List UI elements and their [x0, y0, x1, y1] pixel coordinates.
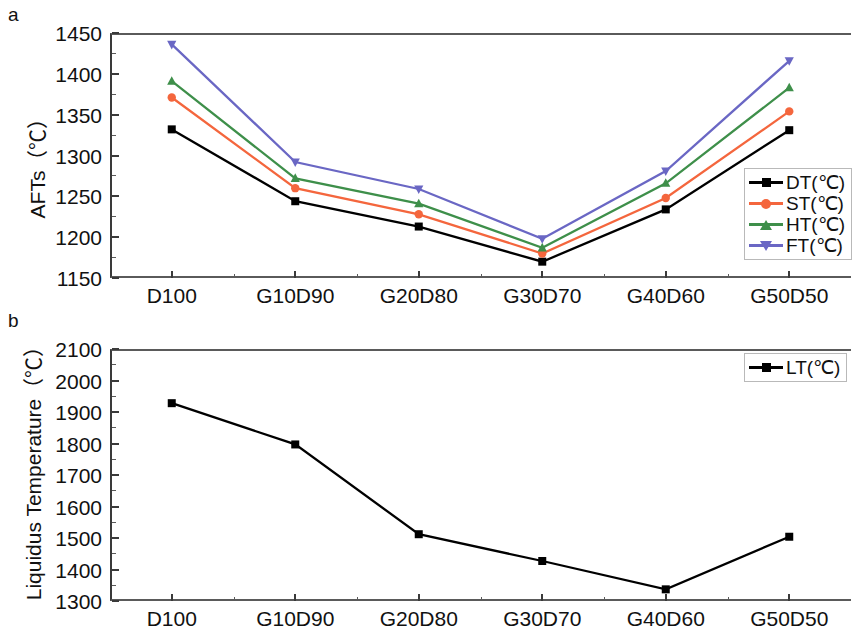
- data-point-marker: [415, 223, 423, 231]
- legend-swatch: [749, 239, 783, 253]
- legend-swatch: [749, 218, 783, 232]
- data-point-marker: [415, 210, 423, 218]
- legend-marker: [760, 220, 772, 230]
- data-point-marker: [662, 205, 670, 213]
- data-point-marker: [785, 533, 793, 541]
- legend-label: DT(℃): [786, 173, 845, 192]
- x-tick-label: G30D70: [503, 608, 581, 629]
- legend-swatch: [749, 197, 783, 211]
- data-point-marker: [785, 83, 794, 92]
- x-tick-label: G20D80: [380, 608, 458, 629]
- data-point-marker: [291, 197, 299, 205]
- x-tick-label: G40D60: [627, 608, 705, 629]
- series-line: [172, 129, 790, 261]
- x-tick-label: G10D90: [256, 608, 334, 629]
- data-point-marker: [538, 258, 546, 266]
- data-point-marker: [167, 76, 176, 85]
- legend-row[interactable]: ST(℃): [749, 193, 845, 214]
- data-point-marker: [291, 440, 299, 448]
- data-point-marker: [168, 93, 176, 101]
- legend-label: FT(℃): [786, 236, 843, 255]
- legend-marker: [760, 241, 772, 251]
- legend-label: LT(℃): [786, 358, 840, 377]
- legend-marker: [762, 178, 771, 187]
- data-point-marker: [168, 399, 176, 407]
- data-point-marker: [538, 235, 547, 244]
- data-point-marker: [662, 585, 670, 593]
- legend-marker: [761, 199, 771, 209]
- series-line: [172, 403, 790, 589]
- data-point-marker: [538, 557, 546, 565]
- data-point-marker: [168, 125, 176, 133]
- legend-row[interactable]: FT(℃): [749, 235, 845, 256]
- series-layer-b: [0, 305, 851, 611]
- legend-marker: [762, 363, 771, 372]
- x-tick-label: D100: [147, 608, 197, 629]
- legend-row[interactable]: LT(℃): [749, 357, 840, 378]
- data-point-marker: [662, 194, 670, 202]
- series-line: [172, 98, 790, 254]
- x-tick-label: G50D50: [750, 608, 828, 629]
- legend-row[interactable]: DT(℃): [749, 172, 845, 193]
- legend-label: ST(℃): [786, 194, 844, 213]
- legend-row[interactable]: HT(℃): [749, 214, 845, 235]
- data-point-marker: [415, 530, 423, 538]
- legend-swatch: [749, 176, 783, 190]
- legend-swatch: [749, 361, 783, 375]
- series-layer-a: [0, 0, 851, 305]
- data-point-marker: [785, 107, 793, 115]
- legend-a: DT(℃)ST(℃)HT(℃)FT(℃): [744, 168, 852, 260]
- data-point-marker: [291, 184, 299, 192]
- panel-a: a AFTs（℃） 1150120012501300135014001450 D…: [0, 0, 851, 305]
- legend-b: LT(℃): [744, 353, 847, 382]
- legend-label: HT(℃): [786, 215, 845, 234]
- panel-b: b Liquidus Temperature（℃） 13001400150016…: [0, 305, 851, 611]
- series-line: [172, 44, 790, 238]
- data-point-marker: [785, 126, 793, 134]
